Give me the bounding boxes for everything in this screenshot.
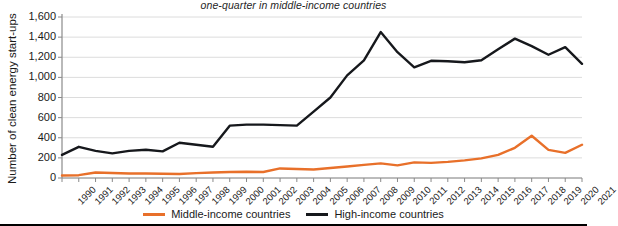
legend-item[interactable]: High-income countries [306,208,443,220]
chart-legend: Middle-income countriesHigh-income count… [0,208,587,220]
y-tick-label: 600 [10,111,56,123]
y-tick-label: 1,000 [10,70,56,82]
y-tick-label: 0 [10,171,56,183]
series-lines [62,32,582,175]
y-tick-label: 1,600 [10,10,56,22]
y-tick-label: 800 [10,91,56,103]
legend-label: Middle-income countries [171,208,290,220]
gridlines [62,17,582,178]
legend-label: High-income countries [334,208,443,220]
y-tick-label: 200 [10,151,56,163]
bottom-divider [0,224,587,226]
y-tick-label: 1,400 [10,30,56,42]
legend-swatch-icon [306,213,328,216]
y-tick-label: 400 [10,131,56,143]
x-tick-label: 2021 [595,184,618,207]
legend-swatch-icon [143,213,165,216]
legend-item[interactable]: Middle-income countries [143,208,290,220]
y-tick-label: 1,200 [10,50,56,62]
x-tick-marks [62,178,582,182]
